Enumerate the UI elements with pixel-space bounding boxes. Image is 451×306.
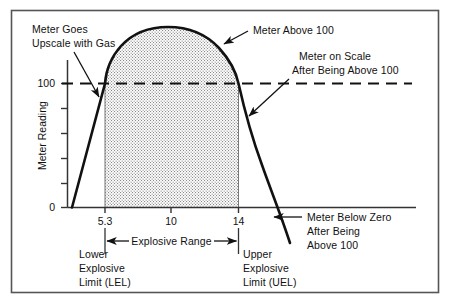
annotation-upscale-line1: Meter Goes [32,23,88,35]
uel-line3: Limit (UEL) [243,276,297,288]
x-tick-label-lel: 5.3 [98,215,113,227]
meter-response-diagram: Meter Reading 100 0 5.3 10 14 Meter Goes… [0,0,451,306]
figure-container: Meter Reading 100 0 5.3 10 14 Meter Goes… [0,0,451,306]
annotation-belowzero-line3: Above 100 [307,239,358,251]
uel-line1: Upper [243,248,273,260]
uel-line2: Explosive [243,262,289,274]
y-tick-label-0: 0 [49,201,55,213]
annotation-above100-line1: Meter Above 100 [253,24,334,36]
x-tick-label-mid: 10 [165,215,177,227]
x-tick-label-uel: 14 [233,215,245,227]
annotation-belowzero-line1: Meter Below Zero [307,211,392,223]
annotation-onscale-line1: Meter on Scale [299,50,371,62]
explosive-range-label: Explosive Range [131,235,211,247]
y-tick-label-100: 100 [37,77,55,89]
lel-line2: Explosive [79,262,125,274]
annotation-upscale-line2: Upscale with Gas [32,37,115,49]
annotation-belowzero-line2: After Being [307,225,360,237]
lel-line1: Lower [79,248,109,260]
explosive-range-shading [105,27,239,208]
lel-line3: Limit (LEL) [79,276,131,288]
annotation-onscale-line2: After Being Above 100 [292,64,399,76]
y-axis-label: Meter Reading [36,101,48,170]
